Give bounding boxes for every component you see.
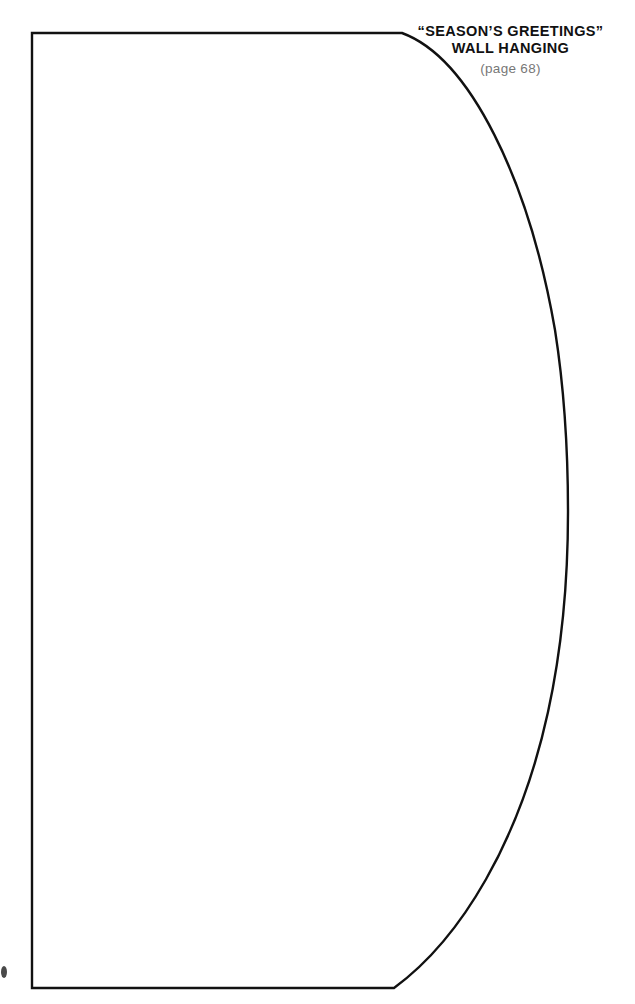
wall-hanging-panel-outline-path: [32, 33, 568, 988]
title-block: “SEASON’S GREETINGS” WALL HANGING (page …: [398, 24, 623, 76]
pattern-template-page: “SEASON’S GREETINGS” WALL HANGING (page …: [0, 0, 635, 1004]
scan-speck-artifact: [1, 966, 7, 978]
pattern-shape: [0, 0, 635, 1004]
pattern-title-line-2: WALL HANGING: [398, 41, 623, 56]
pattern-page-reference: (page 68): [398, 62, 623, 76]
pattern-title-line-1: “SEASON’S GREETINGS”: [398, 24, 623, 39]
